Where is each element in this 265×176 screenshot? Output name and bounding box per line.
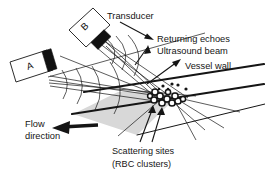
label-flow-direction-line2: direction xyxy=(25,131,60,141)
rbc-dot xyxy=(184,87,187,90)
label-ultrasound-beam: Ultrasound beam xyxy=(157,46,228,56)
rbc-cluster xyxy=(180,96,185,101)
rbc-cluster xyxy=(172,93,178,99)
rbc-dot xyxy=(176,83,179,86)
label-vessel-wall: Vessel wall xyxy=(185,61,231,71)
label-scattering-sites-line1: Scattering sites xyxy=(112,146,175,156)
label-returning-echoes: Returning echoes xyxy=(157,34,230,44)
rbc-dot xyxy=(167,88,170,91)
rbc-cluster xyxy=(157,93,163,99)
figure-canvas: A B xyxy=(0,0,265,176)
rbc-dot xyxy=(161,84,164,87)
rbc-cluster xyxy=(148,94,153,99)
label-transducer: Transducer xyxy=(107,11,154,21)
label-scattering-sites-line2: (RBC clusters) xyxy=(112,159,171,169)
rbc-dot xyxy=(170,82,173,85)
label-flow-direction-line1: Flow xyxy=(25,119,45,129)
rbc-dot xyxy=(158,88,160,90)
